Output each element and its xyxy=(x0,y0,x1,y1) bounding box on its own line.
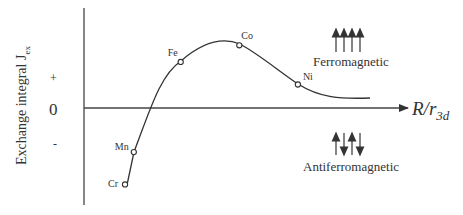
data-point-ni xyxy=(295,82,300,87)
point-label-fe: Fe xyxy=(168,47,179,58)
data-point-fe xyxy=(178,59,183,64)
data-point-mn xyxy=(131,150,136,155)
data-point-co xyxy=(237,43,242,48)
x-axis-label: R/r3d xyxy=(411,98,450,123)
point-label-mn: Mn xyxy=(115,141,129,152)
point-label-cr: Cr xyxy=(108,178,119,189)
y-tick-minus: - xyxy=(53,137,57,151)
ferromagnetic-arrows xyxy=(333,29,364,52)
antiferromagnetic-arrows xyxy=(333,133,364,155)
point-label-co: Co xyxy=(241,30,253,41)
data-point-cr xyxy=(122,182,127,187)
antiferromagnetic-label: Antiferromagnetic xyxy=(303,159,399,174)
y-axis-label: Exchange integral Jex xyxy=(14,46,32,165)
ferromagnetic-label: Ferromagnetic xyxy=(313,54,389,69)
exchange-integral-diagram: Exchange integral Jex + 0 - R/r3d CrMnFe… xyxy=(0,0,463,215)
point-label-ni: Ni xyxy=(303,71,313,82)
y-tick-zero: 0 xyxy=(49,100,58,119)
y-tick-plus: + xyxy=(50,71,57,85)
